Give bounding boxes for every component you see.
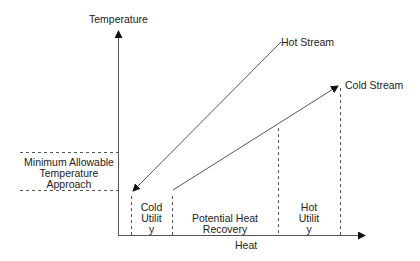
min-approach-label: Minimum Allowable Temperature Approach xyxy=(20,157,118,190)
cold-utility-label: Cold Utilit y xyxy=(131,202,172,235)
y-axis-label: Temperature xyxy=(89,14,148,25)
hot-utility-label: Hot Utilit y xyxy=(278,202,340,235)
cold-utility-line3: y xyxy=(131,224,172,235)
hot-utility-line3: y xyxy=(278,224,340,235)
heat-recovery-label: Potential Heat Recovery xyxy=(172,213,278,235)
x-axis-label: Heat xyxy=(235,240,257,251)
min-approach-line3: Approach xyxy=(20,179,118,190)
cold-stream-line xyxy=(173,86,338,190)
heat-recovery-line2: Recovery xyxy=(172,224,278,235)
hot-stream-label: Hot Stream xyxy=(281,37,334,48)
cold-stream-label: Cold Stream xyxy=(345,80,403,91)
